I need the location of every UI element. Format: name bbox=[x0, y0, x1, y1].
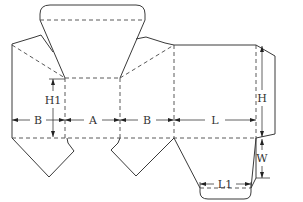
label-a: A bbox=[88, 114, 98, 127]
bottom-tuck-flap bbox=[174, 138, 256, 199]
label-h: H bbox=[257, 92, 267, 105]
left-dust-flap-fold bbox=[12, 45, 65, 78]
label-h1: H1 bbox=[45, 94, 62, 107]
bottom-middle-flap bbox=[111, 138, 174, 176]
label-b-right: B bbox=[143, 114, 151, 127]
right-dust-flap-fold bbox=[120, 45, 174, 78]
label-b-left: B bbox=[34, 114, 42, 127]
top-lid-tab bbox=[40, 5, 145, 20]
dieline-diagram: B A B L bbox=[0, 0, 303, 202]
dim-h1 bbox=[49, 79, 65, 137]
label-w: W bbox=[256, 152, 268, 165]
dieline-svg: B A B L bbox=[0, 0, 303, 202]
top-lid-trapezoid bbox=[40, 20, 145, 78]
right-dust-flap bbox=[136, 37, 174, 45]
label-l: L bbox=[211, 114, 219, 127]
bottom-left-flap bbox=[12, 138, 74, 177]
label-l1: L1 bbox=[218, 178, 232, 191]
left-dust-flap bbox=[12, 35, 53, 52]
